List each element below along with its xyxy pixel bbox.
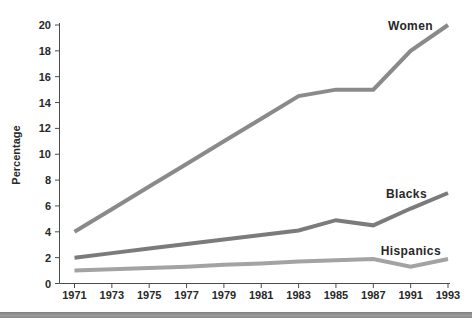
y-tick-label: 0 <box>45 278 51 290</box>
y-tick-label: 14 <box>39 97 52 109</box>
y-tick-label: 4 <box>45 226 52 238</box>
x-tick-label: 1971 <box>62 289 86 301</box>
series-label-blacks: Blacks <box>386 187 427 201</box>
series-label-women: Women <box>388 19 433 33</box>
x-tick-label: 1977 <box>174 289 198 301</box>
y-axis-title: Percentage <box>10 125 22 184</box>
bottom-rule-bar <box>0 312 472 318</box>
x-tick-label: 1973 <box>100 289 124 301</box>
x-tick-label: 1991 <box>398 289 422 301</box>
x-tick-label: 1985 <box>324 289 348 301</box>
figure: 0246810121416182019711973197519771979198… <box>0 0 472 323</box>
x-tick-label: 1987 <box>361 289 385 301</box>
y-tick-label: 16 <box>39 71 51 83</box>
x-tick-label: 1975 <box>137 289 161 301</box>
y-tick-label: 20 <box>39 19 51 31</box>
x-tick-label: 1981 <box>249 289 273 301</box>
y-tick-label: 8 <box>45 174 51 186</box>
y-tick-label: 12 <box>39 122 51 134</box>
y-tick-label: 6 <box>45 200 51 212</box>
series-label-hispanics: Hispanics <box>381 244 441 258</box>
y-tick-label: 18 <box>39 45 51 57</box>
y-tick-label: 10 <box>39 148 51 160</box>
x-tick-label: 1993 <box>436 289 460 301</box>
line-chart: 0246810121416182019711973197519771979198… <box>0 0 472 310</box>
x-tick-label: 1979 <box>212 289 236 301</box>
y-tick-label: 2 <box>45 252 51 264</box>
series-line-hispanics <box>75 259 449 271</box>
x-tick-label: 1983 <box>286 289 310 301</box>
